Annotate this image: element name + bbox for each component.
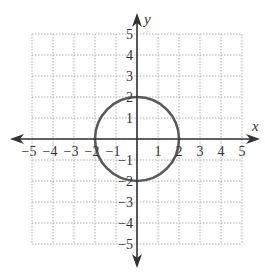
y-tick-label: 4 <box>126 48 133 63</box>
x-tick-label: 3 <box>197 144 204 159</box>
y-tick-label: −4 <box>118 216 133 231</box>
x-tick-label: 1 <box>155 144 162 159</box>
axes <box>10 13 260 268</box>
y-tick-label: −2 <box>118 174 133 189</box>
coordinate-plane: −5−4−3−2−11234554321−1−2−3−4−5 x y <box>0 0 265 276</box>
y-tick-label: 2 <box>126 90 133 105</box>
x-tick-label: −3 <box>64 144 79 159</box>
x-tick-label: 5 <box>239 144 246 159</box>
x-tick-label: 2 <box>176 144 183 159</box>
y-tick-label: 5 <box>126 27 133 42</box>
y-tick-label: −1 <box>118 153 133 168</box>
x-tick-label: −5 <box>22 144 37 159</box>
y-tick-label: −5 <box>118 237 133 252</box>
y-tick-label: −3 <box>118 195 133 210</box>
x-tick-label: −2 <box>85 144 100 159</box>
x-tick-label: −4 <box>43 144 58 159</box>
x-tick-label: 4 <box>218 144 225 159</box>
y-axis-label: y <box>142 11 151 27</box>
x-axis-label: x <box>251 118 259 134</box>
y-tick-label: 3 <box>126 69 133 84</box>
y-tick-label: 1 <box>126 111 133 126</box>
